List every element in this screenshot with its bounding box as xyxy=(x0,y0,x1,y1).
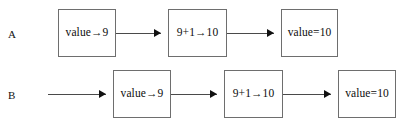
connector-leading-b1 xyxy=(48,94,106,95)
row-label-b: B xyxy=(8,90,16,101)
flowchart-canvas: A value→9 9+1→10 value=10 B value→9 9+1→… xyxy=(0,0,400,125)
node-a2-label: 9+1→10 xyxy=(177,27,219,39)
node-a3-label: value=10 xyxy=(288,27,332,39)
node-a1-label: value→9 xyxy=(66,27,109,39)
node-b1-label: value→9 xyxy=(121,88,164,100)
arrowhead-leading-b1-icon xyxy=(99,90,106,98)
row-label-a: A xyxy=(8,29,16,40)
node-b3[interactable]: value=10 xyxy=(338,70,396,118)
arrowhead-b2-b3-icon xyxy=(324,90,331,98)
node-a2[interactable]: 9+1→10 xyxy=(168,9,227,57)
arrowhead-a1-a2-icon xyxy=(154,29,161,37)
node-b1[interactable]: value→9 xyxy=(113,70,171,118)
node-b2-label: 9+1→10 xyxy=(233,88,275,100)
arrowhead-a2-a3-icon xyxy=(267,29,274,37)
node-a1[interactable]: value→9 xyxy=(58,9,116,57)
arrowhead-b1-b2-icon xyxy=(210,90,217,98)
node-a3[interactable]: value=10 xyxy=(281,9,338,57)
node-b2[interactable]: 9+1→10 xyxy=(224,70,283,118)
node-b3-label: value=10 xyxy=(345,88,389,100)
